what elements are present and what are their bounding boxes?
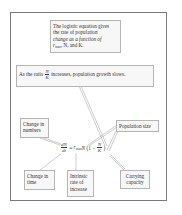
close-paren: ) (102, 145, 105, 151)
rhs-fraction: NK (97, 142, 101, 153)
lhs-derivative: dNdt (61, 142, 68, 153)
callout-ratio-note: As the ratio NK increases, population gr… (16, 65, 154, 87)
ratio-fraction: NK (45, 69, 49, 80)
callout-population-size: Population size (116, 120, 159, 132)
rhs-frac-den: K (97, 148, 101, 153)
summary-line-2: the rate of population (53, 29, 118, 36)
r-max-term: rmax (74, 144, 82, 152)
summary-line-3: change as a function of (53, 36, 118, 43)
ratio-suffix: increases, population growth slows. (50, 71, 126, 77)
callout-carrying-capacity: Carrying capacity (120, 170, 150, 189)
summary-line-1: The logistic equation gives (53, 23, 118, 30)
population-size-label: Population size (119, 123, 156, 130)
change-in-time-line-1: Change in (27, 173, 52, 180)
summary-line-4: rmax, N, and K. (53, 42, 118, 51)
callout-change-in-time: Change in time (24, 170, 55, 190)
open-paren: (1 − (85, 145, 97, 151)
intrinsic-rate-line-3: increase (70, 186, 91, 193)
lhs-dt: dt (61, 148, 68, 153)
change-in-numbers-line-2: numbers (23, 127, 46, 134)
carrying-capacity-line-2: capacity (123, 179, 147, 186)
callout-summary: The logistic equation gives the rate of … (50, 20, 121, 53)
ratio-prefix: As the ratio (19, 71, 45, 77)
logistic-equation: dNdt = rmaxN (1 − NK ) (60, 142, 105, 153)
intrinsic-rate-line-1: Intrinsic (70, 173, 91, 180)
callout-change-in-numbers: Change in numbers (20, 118, 49, 138)
intrinsic-rate-line-2: rate of (70, 179, 91, 186)
equals-sign: = (69, 145, 72, 151)
callout-intrinsic-rate: Intrinsic rate of increase (67, 170, 94, 197)
ratio-frac-den: K (45, 75, 49, 80)
change-in-time-line-2: time (27, 179, 52, 186)
summary-line-4-suffix: , N, and K. (61, 42, 84, 48)
carrying-capacity-line-1: Carrying (123, 173, 147, 180)
change-in-numbers-line-1: Change in (23, 121, 46, 128)
